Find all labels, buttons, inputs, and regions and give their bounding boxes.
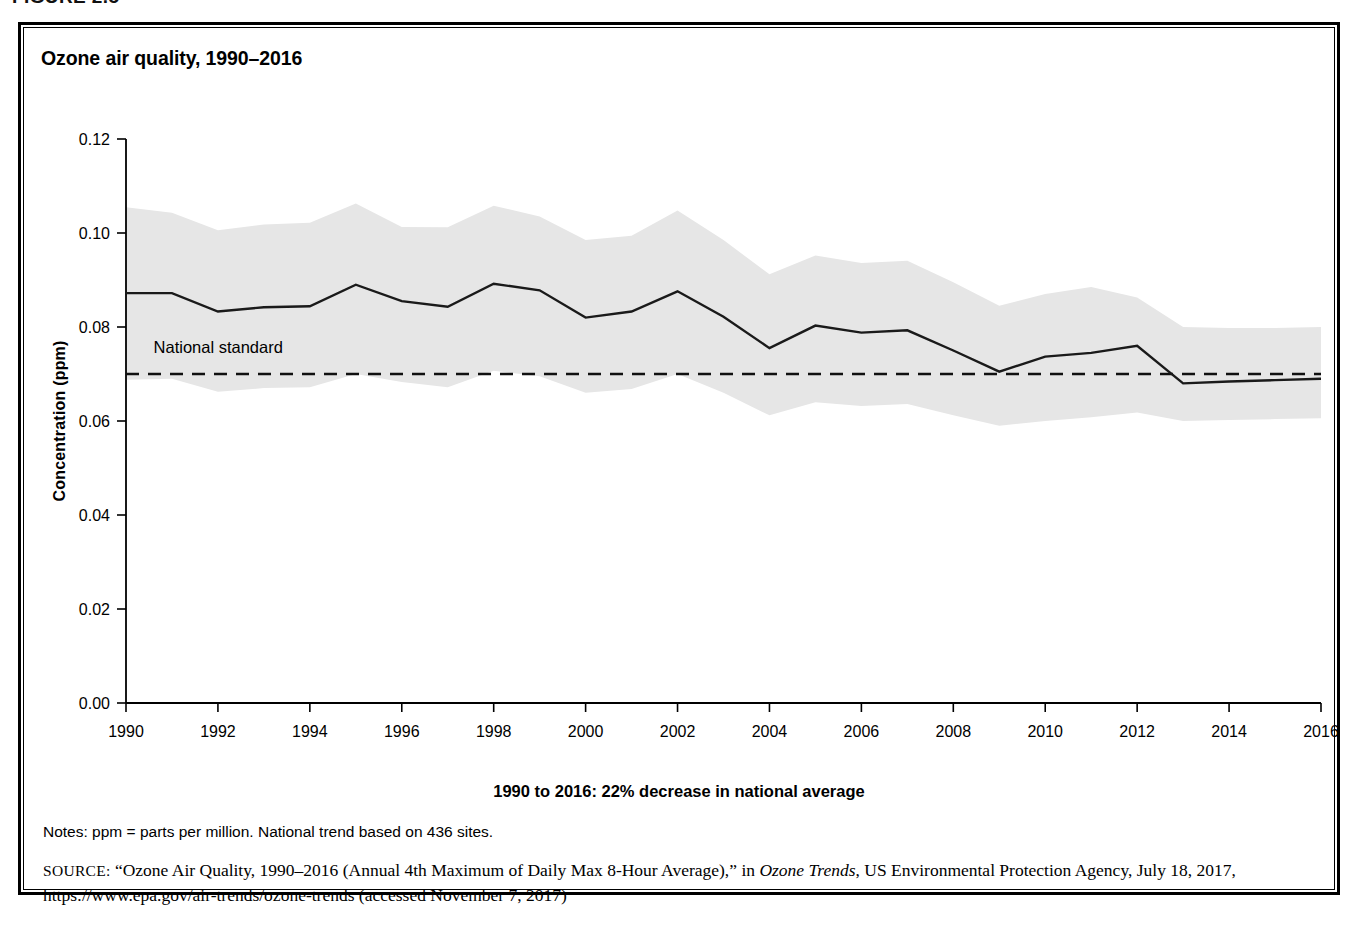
y-tick-label: 0.02 bbox=[79, 601, 110, 618]
x-tick-label: 2008 bbox=[936, 723, 972, 740]
chart-annotations: National standard bbox=[154, 338, 283, 356]
x-tick-label: 2012 bbox=[1119, 723, 1155, 740]
source-label: SOURCE: bbox=[43, 862, 111, 879]
x-axis-tick-labels: 1990199219941996199820002002200420062008… bbox=[108, 723, 1339, 740]
x-tick-label: 1990 bbox=[108, 723, 144, 740]
figure-container: Ozone air quality, 1990–2016 0.000.020.0… bbox=[18, 22, 1340, 895]
source-publication: Ozone Trends bbox=[759, 860, 855, 880]
x-tick-label: 1994 bbox=[292, 723, 328, 740]
national-standard-annotation: National standard bbox=[154, 338, 283, 356]
y-tick-label: 0.12 bbox=[79, 131, 110, 148]
x-tick-label: 2004 bbox=[752, 723, 788, 740]
y-tick-label: 0.10 bbox=[79, 225, 110, 242]
source-text-1: “Ozone Air Quality, 1990–2016 (Annual 4t… bbox=[111, 860, 760, 880]
x-axis-subtitle: 1990 to 2016: 22% decrease in national a… bbox=[21, 782, 1337, 801]
x-tick-label: 1998 bbox=[476, 723, 512, 740]
x-tick-label: 2014 bbox=[1211, 723, 1247, 740]
chart-plot-area: 0.000.020.040.060.080.100.12 19901992199… bbox=[21, 25, 1343, 815]
x-tick-label: 2010 bbox=[1027, 723, 1063, 740]
y-tick-label: 0.08 bbox=[79, 319, 110, 336]
chart-source: SOURCE: “Ozone Air Quality, 1990–2016 (A… bbox=[43, 858, 1319, 909]
ozone-line-chart: 0.000.020.040.060.080.100.12 19901992199… bbox=[21, 25, 1343, 815]
y-axis-title: Concentration (ppm) bbox=[51, 340, 68, 501]
y-axis-tick-labels: 0.000.020.040.060.080.100.12 bbox=[79, 131, 110, 712]
x-tick-label: 2000 bbox=[568, 723, 604, 740]
y-tick-label: 0.00 bbox=[79, 695, 110, 712]
x-tick-label: 1992 bbox=[200, 723, 236, 740]
x-tick-label: 2002 bbox=[660, 723, 696, 740]
x-tick-label: 2016 bbox=[1303, 723, 1339, 740]
x-tick-label: 1996 bbox=[384, 723, 420, 740]
x-tick-label: 2006 bbox=[844, 723, 880, 740]
y-tick-label: 0.06 bbox=[79, 413, 110, 430]
y-tick-label: 0.04 bbox=[79, 507, 110, 524]
figure-caption: FIGURE 2.5 bbox=[12, 0, 119, 8]
chart-notes: Notes: ppm = parts per million. National… bbox=[43, 822, 1313, 843]
percentile-band bbox=[126, 203, 1321, 425]
